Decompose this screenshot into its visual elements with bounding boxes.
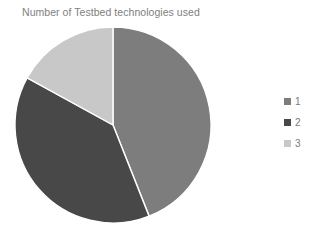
legend-label-2: 2 xyxy=(295,117,301,128)
pie-svg xyxy=(0,0,250,236)
legend-swatch-2-icon xyxy=(284,119,291,126)
legend-swatch-3-icon xyxy=(284,140,291,147)
legend-label-3: 3 xyxy=(295,138,301,149)
legend-item-3[interactable]: 3 xyxy=(284,138,320,149)
pie-slices xyxy=(15,27,211,223)
plot-area xyxy=(0,0,250,236)
legend-item-1[interactable]: 1 xyxy=(284,96,320,107)
chart-legend: 1 2 3 xyxy=(284,96,320,149)
pie-chart-figure: Number of Testbed technologies used 1 2 … xyxy=(0,0,323,236)
legend-swatch-1-icon xyxy=(284,98,291,105)
legend-label-1: 1 xyxy=(295,96,301,107)
legend-item-2[interactable]: 2 xyxy=(284,117,320,128)
